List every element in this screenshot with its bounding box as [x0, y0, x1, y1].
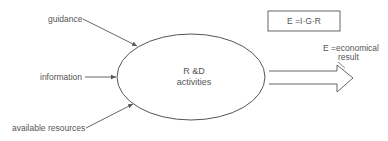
input-label-guidance: guidance	[48, 14, 83, 24]
arrow-available-resources	[86, 104, 133, 128]
output-label-line2: result	[338, 52, 359, 62]
process-label-line1: R &D	[183, 66, 205, 76]
input-label-information: information	[40, 72, 82, 82]
input-label-available-resources: available resources	[12, 123, 85, 133]
arrow-guidance	[83, 19, 137, 46]
process-label-line2: activities	[177, 77, 212, 87]
formula-text: E =I·G·R	[287, 16, 321, 26]
rd-process-diagram: guidance information available resources…	[0, 0, 388, 141]
output-arrow	[269, 65, 353, 92]
